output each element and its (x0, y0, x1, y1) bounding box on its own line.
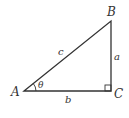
vertex-label-b: B (106, 5, 116, 19)
angle-label-theta: θ (38, 80, 44, 90)
vertex-label-a: A (10, 85, 20, 99)
angle-arc (33, 84, 36, 92)
right-angle-marker (105, 85, 111, 91)
vertex-label-c: C (114, 87, 123, 101)
right-triangle-diagram: A B C a b c θ (0, 0, 129, 118)
side-label-b: b (65, 94, 71, 105)
side-label-c: c (58, 46, 64, 57)
side-label-a: a (114, 51, 120, 62)
